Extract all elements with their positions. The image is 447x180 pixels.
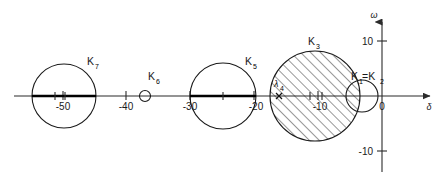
region-k5: K 5 [190,55,257,129]
delta-axis-label: δ [426,102,432,112]
y-tick-label-plus10: 10 [362,36,374,47]
x-tick-label-zero: 0 [379,101,385,112]
region-k7: K 7 [32,55,99,128]
k5-label: K [245,55,252,67]
k7-label: K [87,55,94,67]
k5-label-subscript: 5 [253,63,257,70]
complex-plane-plot: δ ω -50 -40 -30 -20 -10 0 10 -10 [0,0,447,180]
gershgorin-disc-diagram: δ ω -50 -40 -30 -20 -10 0 10 -10 [0,0,447,180]
k6-label: K [148,70,155,82]
x-tick-label-minus50: -50 [56,101,71,112]
k1-k2-label-part1: K [351,70,358,82]
k6-label-subscript: 6 [156,78,160,85]
k3-label: K [308,35,315,47]
x-tick-label-minus20: -20 [249,101,264,112]
y-tick-label-minus10: -10 [359,146,374,157]
k3-label-subscript: 3 [316,43,320,50]
k7-label-subscript: 7 [95,63,99,70]
omega-axis-label: ω [370,10,377,20]
x-tick-label-minus40: -40 [119,101,134,112]
region-k3: K 3 [270,35,360,141]
region-k6: K 6 [140,70,161,102]
k1-k2-label-subscript2: 2 [380,78,384,85]
k1-k2-label-part2: =K [362,70,375,82]
